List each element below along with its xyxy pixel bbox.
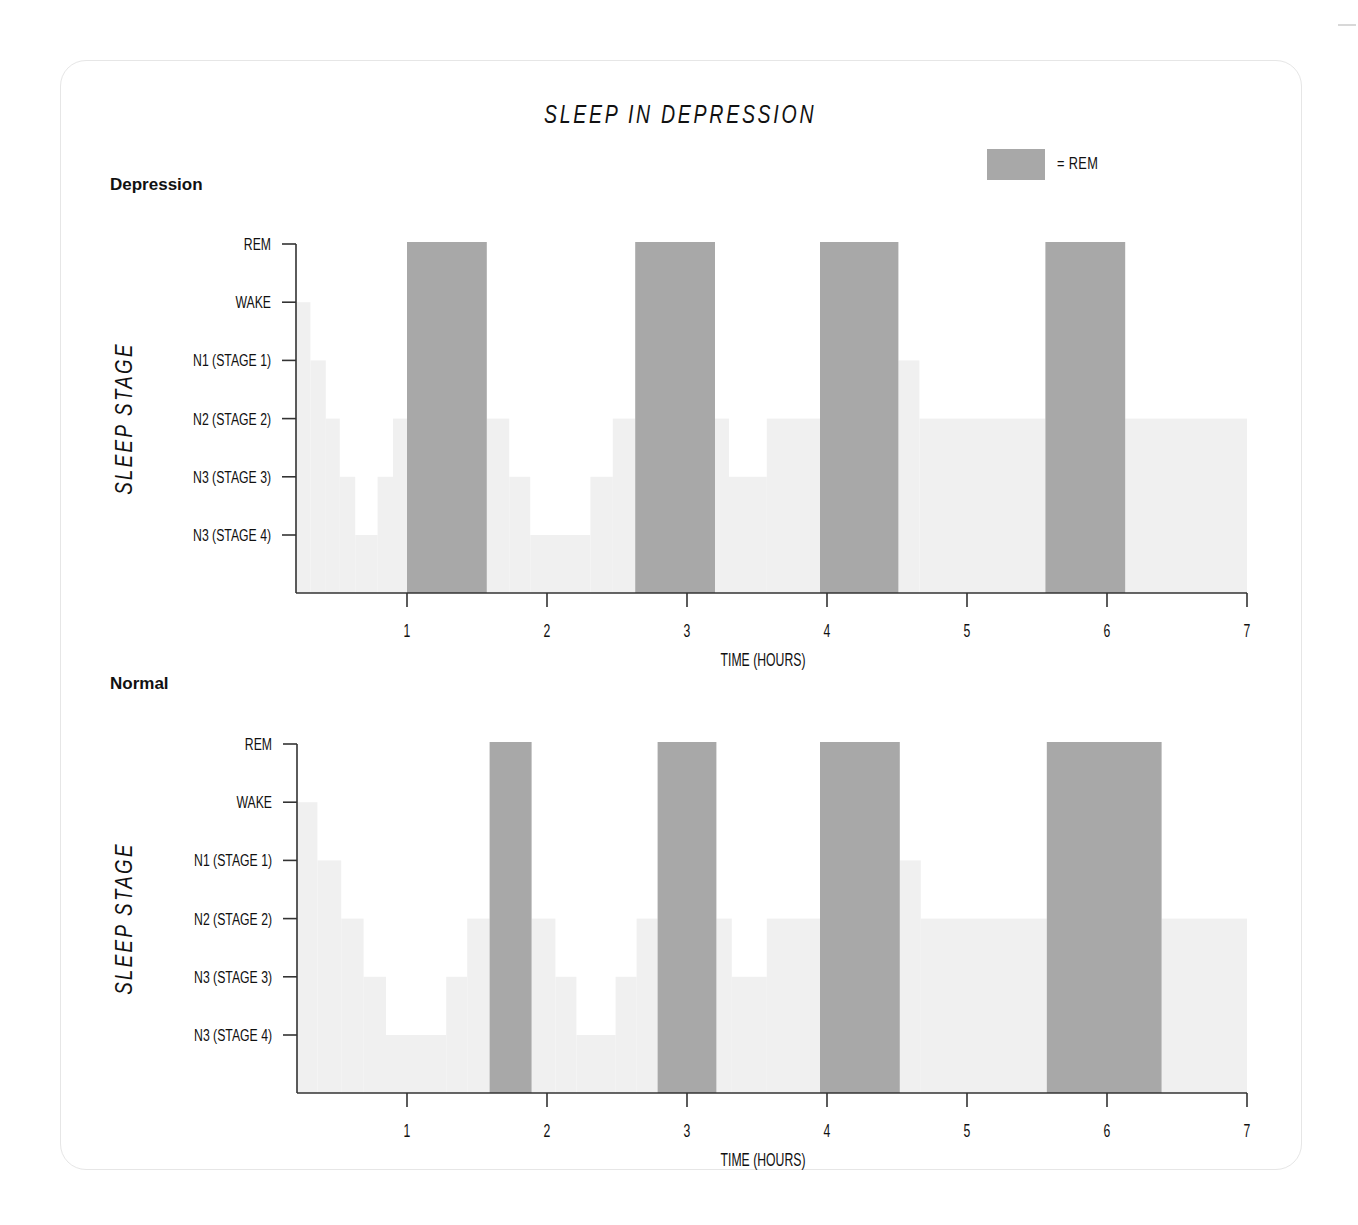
stage-segment	[310, 360, 325, 593]
stage-segment	[767, 419, 820, 593]
stage-segment	[296, 302, 310, 593]
y-tick-label: REM	[245, 735, 272, 753]
stage-segment	[729, 477, 767, 593]
x-tick-label: 5	[964, 1121, 971, 1141]
y-tick-label: N3 (STAGE 4)	[193, 526, 271, 544]
stage-segment	[767, 919, 820, 1093]
y-tick-label: N1 (STAGE 1)	[193, 351, 271, 369]
x-tick-label: 4	[824, 621, 831, 641]
stage-segment	[317, 860, 341, 1093]
stage-segment	[732, 977, 767, 1093]
stage-segment	[715, 419, 729, 593]
y-tick-label: WAKE	[236, 793, 272, 811]
stage-segment	[616, 977, 637, 1093]
stage-segment	[898, 360, 919, 593]
stage-segment	[355, 535, 377, 593]
x-tick-label: 7	[1244, 621, 1251, 641]
y-tick-label: N2 (STAGE 2)	[193, 410, 271, 428]
hypnogram-normal: REMWAKEN1 (STAGE 1)N2 (STAGE 2)N3 (STAGE…	[111, 735, 1251, 1169]
rem-segment	[1047, 742, 1162, 1093]
rem-segment	[490, 742, 532, 1093]
stage-segment	[378, 477, 393, 593]
stage-segment	[637, 919, 658, 1093]
rem-segment	[820, 242, 898, 593]
stage-segment	[467, 919, 489, 1093]
y-tick-label: N3 (STAGE 4)	[194, 1026, 272, 1044]
rem-segment	[820, 742, 900, 1093]
y-axis-title: SLEEP STAGE	[111, 342, 138, 495]
stage-segment	[297, 802, 317, 1093]
stage-segment	[716, 919, 731, 1093]
y-tick-label: WAKE	[235, 293, 271, 311]
x-axis-title: TIME (HOURS)	[721, 650, 806, 670]
x-tick-label: 6	[1104, 621, 1111, 641]
y-tick-label: N1 (STAGE 1)	[194, 851, 272, 869]
y-tick-label: N3 (STAGE 3)	[194, 968, 272, 986]
rem-segment	[635, 242, 715, 593]
stage-segment	[530, 535, 590, 593]
y-tick-label: REM	[244, 235, 271, 253]
stage-segment	[1125, 419, 1247, 593]
stage-segment	[576, 1035, 615, 1093]
stage-segment	[446, 977, 467, 1093]
stage-segment	[386, 1035, 446, 1093]
x-tick-label: 3	[684, 621, 691, 641]
x-tick-label: 5	[964, 621, 971, 641]
stage-segment	[326, 419, 340, 593]
stage-segment	[340, 477, 355, 593]
stage-segment	[919, 419, 1045, 593]
y-axis-title: SLEEP STAGE	[111, 842, 138, 995]
stage-segment	[532, 919, 556, 1093]
x-tick-label: 6	[1104, 1121, 1111, 1141]
x-tick-label: 2	[544, 621, 551, 641]
stage-segment	[590, 477, 612, 593]
hypnogram-depression: REMWAKEN1 (STAGE 1)N2 (STAGE 2)N3 (STAGE…	[111, 235, 1251, 669]
stage-segment	[921, 919, 1047, 1093]
stage-segment	[509, 477, 530, 593]
rem-segment	[658, 742, 717, 1093]
y-tick-label: N3 (STAGE 3)	[193, 468, 271, 486]
stage-segment	[613, 419, 635, 593]
x-axis-title: TIME (HOURS)	[721, 1150, 806, 1170]
y-tick-label: N2 (STAGE 2)	[194, 910, 272, 928]
stage-segment	[1162, 919, 1247, 1093]
stage-segment	[341, 919, 363, 1093]
stage-segment	[364, 977, 386, 1093]
rem-segment	[1045, 242, 1125, 593]
stage-segment	[555, 977, 576, 1093]
rem-segment	[407, 242, 487, 593]
x-tick-label: 7	[1244, 1121, 1251, 1141]
x-tick-label: 3	[684, 1121, 691, 1141]
x-tick-label: 1	[404, 621, 411, 641]
x-tick-label: 4	[824, 1121, 831, 1141]
stage-segment	[487, 419, 509, 593]
x-tick-label: 2	[544, 1121, 551, 1141]
stage-segment	[393, 419, 407, 593]
x-tick-label: 1	[404, 1121, 411, 1141]
stage-segment	[900, 860, 921, 1093]
hypnogram-charts: REMWAKEN1 (STAGE 1)N2 (STAGE 2)N3 (STAGE…	[0, 0, 1358, 1225]
